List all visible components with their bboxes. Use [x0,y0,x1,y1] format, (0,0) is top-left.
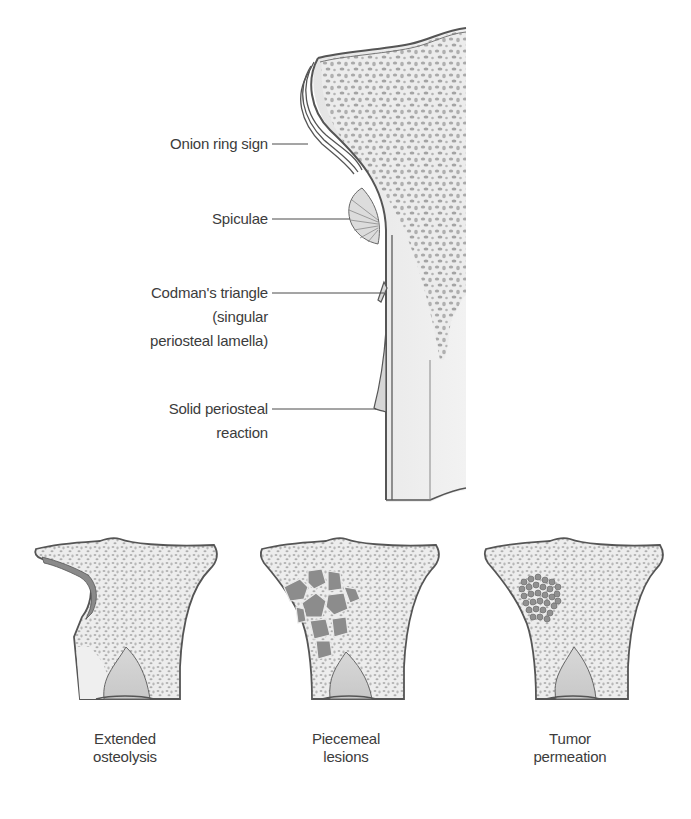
bone-piecemeal-lesions [261,538,439,699]
caption-line2: lesions [276,748,416,766]
label-onion-ring-sign: Onion ring sign [100,135,268,153]
label-codman-triangle: Codman's triangle [80,284,268,302]
label-solid-reaction: reaction [80,424,268,442]
bone-tumor-permeation [485,538,663,699]
bone-extended-osteolysis [35,538,217,699]
caption-tumor-permeation: Tumor permeation [500,730,640,766]
label-solid-periosteal: Solid periosteal [80,400,268,418]
label-codman-singular: (singular [80,308,268,326]
caption-line2: permeation [500,748,640,766]
caption-extended-osteolysis: Extended osteolysis [55,730,195,766]
caption-line1: Tumor [500,730,640,748]
solid-periosteal-shape [374,330,386,412]
main-bone-figure [272,28,466,502]
caption-line2: osteolysis [55,748,195,766]
leader-lines [272,144,384,409]
caption-line1: Extended [55,730,195,748]
spiculae-fan [349,188,380,244]
label-spiculae: Spiculae [100,210,268,228]
label-codman-lamella: periosteal lamella) [80,332,268,350]
caption-piecemeal-lesions: Piecemeal lesions [276,730,416,766]
caption-line1: Piecemeal [276,730,416,748]
